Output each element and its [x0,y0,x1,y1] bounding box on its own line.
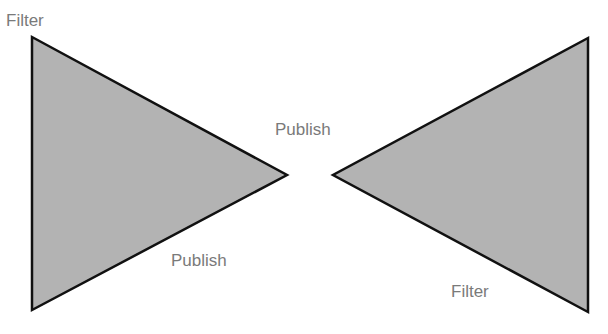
label-filter-right-bottom: Filter [451,283,489,300]
right-triangle [333,38,588,312]
label-publish-center: Publish [275,121,331,138]
label-filter-top-left: Filter [6,12,44,29]
label-publish-left-bottom: Publish [171,252,227,269]
triangles-graphic [0,0,608,334]
left-triangle [32,37,287,310]
diagram-canvas: Filter Publish Publish Filter [0,0,608,334]
